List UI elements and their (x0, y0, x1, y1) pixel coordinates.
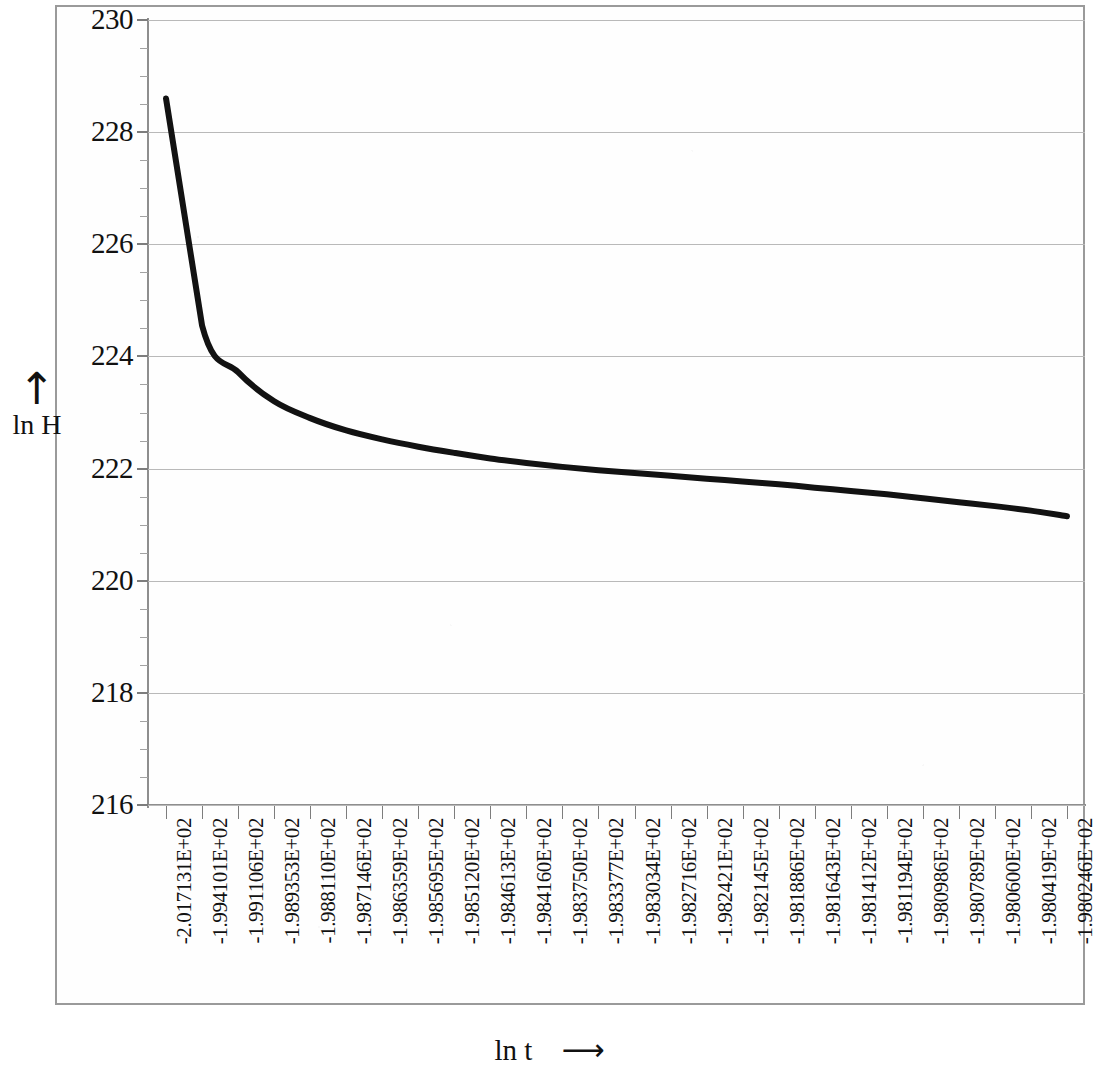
chart-canvas (148, 20, 1085, 805)
y-tick-label: 216 (55, 790, 133, 819)
y-tick-label: 224 (55, 341, 133, 370)
y-tick-label: 218 (55, 678, 133, 707)
up-arrow-icon: ↑ (2, 368, 72, 410)
x-tick-label: -1.991106E+02 (246, 818, 267, 943)
y-tick-222 (137, 468, 148, 470)
x-tick (995, 806, 996, 819)
x-tick (887, 806, 888, 819)
x-tick (346, 806, 347, 819)
y-tick-label: 226 (55, 229, 133, 258)
y-tick-label: 228 (55, 117, 133, 146)
x-tick-label: -1.980246E+02 (1075, 818, 1096, 944)
x-tick (526, 806, 527, 819)
x-tick (490, 806, 491, 819)
x-tick-label: -1.980600E+02 (1003, 818, 1024, 944)
x-tick-label: -1.983377E+02 (606, 818, 627, 944)
x-tick (382, 806, 383, 819)
y-tick-218 (137, 692, 148, 694)
x-tick (671, 806, 672, 819)
gridline-y-216 (148, 805, 1085, 806)
x-tick-label: -1.981643E+02 (823, 818, 844, 944)
y-minor-tick (140, 777, 148, 778)
y-axis-title-group: ↑ ln H (2, 368, 72, 440)
y-minor-tick (140, 553, 148, 554)
x-tick (923, 806, 924, 819)
x-tick-label: -1.987146E+02 (354, 818, 375, 944)
y-tick-220 (137, 580, 148, 582)
x-tick-label: -1.982716E+02 (679, 818, 700, 944)
x-tick (1031, 806, 1032, 819)
x-tick (454, 806, 455, 819)
x-tick-label: -2.017131E+02 (174, 818, 195, 944)
x-tick-label: -1.994101E+02 (210, 818, 231, 944)
x-tick-label: -1.983034E+02 (643, 818, 664, 944)
y-minor-tick (140, 48, 148, 49)
y-minor-tick (140, 188, 148, 189)
x-tick-label: -1.986359E+02 (390, 818, 411, 944)
right-arrow-icon: ⟶ (540, 1032, 605, 1067)
y-minor-tick (140, 160, 148, 161)
x-tick (274, 806, 275, 819)
y-tick-230 (137, 19, 148, 21)
x-tick (310, 806, 311, 819)
x-tick (779, 806, 780, 819)
y-minor-tick (140, 497, 148, 498)
x-tick-label: -1.985695E+02 (426, 818, 447, 944)
x-tick-label: -1.984613E+02 (498, 818, 519, 944)
y-minor-tick (140, 104, 148, 105)
y-tick-label: 220 (55, 566, 133, 595)
y-tick-label: 230 (55, 5, 133, 34)
y-minor-tick (140, 525, 148, 526)
data-series-line (166, 99, 1067, 517)
y-minor-tick (140, 216, 148, 217)
y-tick-226 (137, 243, 148, 245)
x-tick-label: -1.982421E+02 (715, 818, 736, 944)
x-tick (598, 806, 599, 819)
x-tick (202, 806, 203, 819)
y-minor-tick (140, 665, 148, 666)
x-tick (562, 806, 563, 819)
y-minor-tick (140, 384, 148, 385)
x-tick (743, 806, 744, 819)
x-tick (707, 806, 708, 819)
plot-area (148, 20, 1085, 805)
x-tick-label: -1.988110E+02 (318, 818, 339, 943)
y-minor-tick (140, 300, 148, 301)
x-tick (238, 806, 239, 819)
x-tick-label: -1.981886E+02 (787, 818, 808, 944)
y-minor-tick (140, 272, 148, 273)
x-tick-label: -1.983750E+02 (570, 818, 591, 944)
y-minor-tick (140, 413, 148, 414)
x-axis-label: ln t (494, 1034, 532, 1066)
x-tick-label: -1.989353E+02 (282, 818, 303, 944)
x-tick (851, 806, 852, 819)
x-tick-label: -1.980986E+02 (931, 818, 952, 944)
y-minor-tick (140, 609, 148, 610)
x-tick (418, 806, 419, 819)
y-axis-label: ln H (2, 410, 72, 440)
x-tick-label: -1.982145E+02 (751, 818, 772, 944)
x-tick (959, 806, 960, 819)
y-tick-228 (137, 131, 148, 133)
x-tick (635, 806, 636, 819)
y-minor-tick (140, 637, 148, 638)
y-minor-tick (140, 328, 148, 329)
y-minor-tick (140, 721, 148, 722)
x-tick-label: -1.981412E+02 (859, 818, 880, 944)
x-tick-label: -1.984160E+02 (534, 818, 555, 944)
x-axis-title-group: ln t ⟶ (0, 1034, 1099, 1066)
x-tick-label: -1.980789E+02 (967, 818, 988, 944)
x-tick (815, 806, 816, 819)
x-tick (166, 806, 167, 819)
y-tick-label: 222 (55, 454, 133, 483)
x-tick (1067, 806, 1068, 819)
y-minor-tick (140, 441, 148, 442)
x-tick-label: -1.981194E+02 (895, 818, 916, 943)
y-minor-tick (140, 76, 148, 77)
x-tick-label: -1.980419E+02 (1039, 818, 1060, 944)
x-tick-label: -1.985120E+02 (462, 818, 483, 944)
y-minor-tick (140, 749, 148, 750)
y-tick-224 (137, 355, 148, 357)
y-tick-216 (137, 804, 148, 806)
